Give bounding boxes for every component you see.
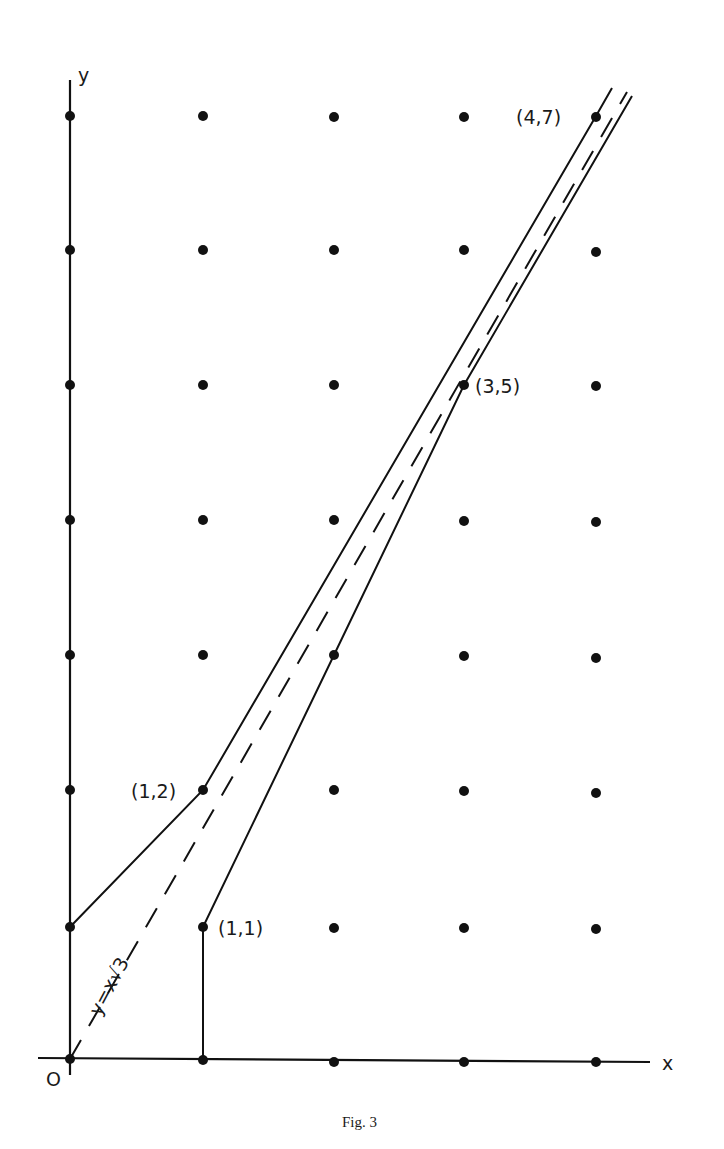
point-label-1-2: (1,2) (131, 780, 176, 802)
x-axis-label: x (662, 1052, 673, 1074)
y-axis-label: y (78, 64, 89, 86)
lattice-diagram: y x O (1,2) (1,1) (3,5) (4,7) y=x√3 Fig.… (0, 0, 724, 1149)
point-label-4-7: (4,7) (516, 106, 561, 128)
figure-caption: Fig. 3 (342, 1114, 377, 1130)
point-label-1-1: (1,1) (218, 917, 263, 939)
dashed-line-y-eq-x-root3 (70, 92, 627, 1059)
origin-label: O (46, 1068, 61, 1090)
lower-path (203, 96, 632, 1060)
x-axis (38, 1058, 650, 1062)
lattice-points (65, 111, 601, 1067)
point-label-3-5: (3,5) (475, 375, 520, 397)
dashed-line-label: y=x√3 (84, 953, 133, 1019)
